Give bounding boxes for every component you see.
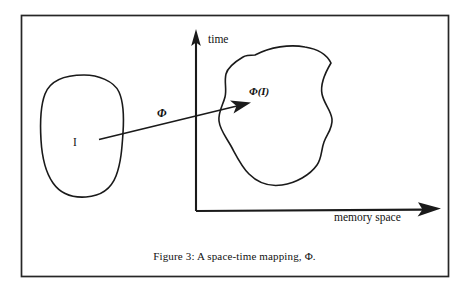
image-set-blob [219,46,332,186]
space-time-mapping-figure: time memory space I Φ(I) Φ Figure 3: A s… [0,0,469,294]
figure-page: time memory space I Φ(I) Φ Figure 3: A s… [0,0,469,294]
time-axis-label: time [208,33,228,45]
source-set-label: I [73,136,77,148]
mapping-arrow-label: Φ [157,106,167,120]
memory-space-axis-label: memory space [334,211,401,224]
figure-caption: Figure 3: A space-time mapping, Φ. [153,250,316,262]
image-set-label: Φ(I) [249,85,269,98]
